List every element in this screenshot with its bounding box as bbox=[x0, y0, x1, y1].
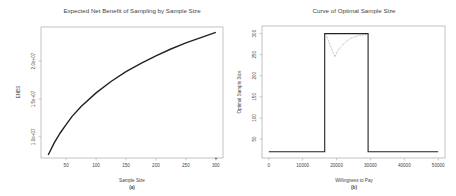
chart-b-optimal-size-line bbox=[269, 34, 438, 152]
chart-a-y-axis: 1.0e+071.5e+072.0e+07 bbox=[31, 52, 41, 145]
chart-b-y-axis: 50100150200250300 bbox=[252, 29, 262, 141]
x-tick-label: 50 bbox=[64, 163, 70, 168]
x-tick-label: 40000 bbox=[398, 163, 411, 168]
chart-a-plus-marker: + bbox=[215, 155, 218, 161]
chart-b-ylabel: Optimal Sample Size bbox=[237, 70, 242, 113]
chart-b-dotted-curve bbox=[326, 34, 367, 56]
x-tick-label: 0 bbox=[267, 163, 270, 168]
chart-a-title: Expected Net Benefit of Sampling by Samp… bbox=[63, 7, 201, 14]
x-tick-label: 250 bbox=[182, 163, 190, 168]
y-tick-label: 150 bbox=[252, 93, 257, 101]
y-tick-label: 1.5e+07 bbox=[31, 90, 36, 107]
chart-a: Expected Net Benefit of Sampling by Samp… bbox=[16, 7, 223, 190]
chart-b-title: Curve of Optimal Sample Size bbox=[313, 7, 396, 14]
chart-b-x-axis: 01000020000300004000050000 bbox=[267, 158, 445, 168]
y-tick-label: 300 bbox=[252, 29, 257, 37]
y-tick-label: 50 bbox=[252, 136, 257, 142]
chart-a-ylabel: ENBS bbox=[16, 86, 21, 99]
y-tick-label: 2.0e+07 bbox=[31, 52, 36, 69]
y-tick-label: 200 bbox=[252, 71, 257, 79]
chart-a-panel-label: (a) bbox=[129, 185, 135, 190]
x-tick-label: 50000 bbox=[432, 163, 445, 168]
y-tick-label: 250 bbox=[252, 50, 257, 58]
chart-b-frame bbox=[262, 26, 445, 158]
chart-a-enbs-curve bbox=[48, 32, 216, 155]
chart-a-xlabel: Sample Size bbox=[119, 178, 145, 183]
x-tick-label: 100 bbox=[92, 163, 100, 168]
chart-a-frame bbox=[41, 27, 223, 158]
chart-a-x-axis: 50100150200250300 bbox=[64, 158, 221, 168]
x-tick-label: 30000 bbox=[364, 163, 377, 168]
x-tick-label: 20000 bbox=[330, 163, 343, 168]
x-tick-label: 200 bbox=[152, 163, 160, 168]
x-tick-label: 150 bbox=[122, 163, 130, 168]
chart-b-panel-label: (b) bbox=[351, 185, 357, 190]
chart-b: Curve of Optimal Sample Size 01000020000… bbox=[237, 7, 445, 190]
x-tick-label: 10000 bbox=[296, 163, 309, 168]
y-tick-label: 1.0e+07 bbox=[31, 128, 36, 145]
x-tick-label: 300 bbox=[212, 163, 220, 168]
y-tick-label: 100 bbox=[252, 114, 257, 122]
figure: Expected Net Benefit of Sampling by Samp… bbox=[0, 0, 456, 196]
chart-b-xlabel: Willingness to Pay bbox=[335, 178, 373, 183]
